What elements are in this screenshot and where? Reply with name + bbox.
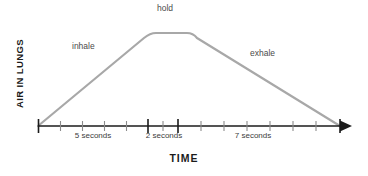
annotation-hold: hold xyxy=(157,3,173,13)
plot-area xyxy=(0,0,368,176)
annotation-inhale: inhale xyxy=(72,41,95,51)
x-axis-arrow-icon xyxy=(340,121,352,132)
x-axis-title: TIME xyxy=(0,152,368,164)
tick-label-exhale-duration: 7 seconds xyxy=(222,131,284,140)
annotation-exhale: exhale xyxy=(250,48,275,58)
breathing-cycle-chart: AIR IN LUNGS inhale xyxy=(0,0,368,176)
tick-label-hold-duration: 2 seconds xyxy=(133,131,195,140)
tick-label-inhale-duration: 5 seconds xyxy=(62,131,124,140)
